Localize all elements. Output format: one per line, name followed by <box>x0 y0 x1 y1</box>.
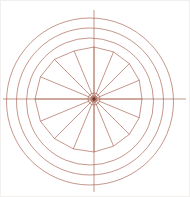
spoke-line-11 <box>54 99 94 139</box>
construction-drawing <box>0 0 190 197</box>
spoke-line-7 <box>54 59 94 99</box>
rim-circle-3 <box>27 38 154 165</box>
spoke-line-3 <box>94 64 129 99</box>
drawing-canvas <box>0 0 190 197</box>
wheel-polygon <box>35 47 142 152</box>
rim-circle-1 <box>7 18 174 185</box>
hub-center-dot <box>92 97 95 100</box>
spoke-line-15 <box>94 99 129 134</box>
